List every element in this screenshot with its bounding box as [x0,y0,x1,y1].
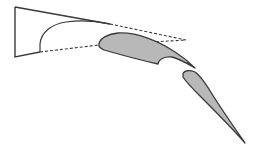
fore-flap [99,33,195,68]
stowed-outline-lower-dashed [40,45,99,52]
airfoil-flap-diagram [0,0,264,149]
aft-flap [183,71,245,143]
